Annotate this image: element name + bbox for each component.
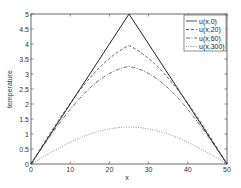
x-tick-label: 50 (223, 166, 231, 173)
y-tick-label: 3 (25, 71, 29, 78)
y-tick-label: 0.5 (19, 146, 29, 153)
y-tick-label: 2 (25, 101, 29, 108)
x-tick-label: 0 (29, 166, 33, 173)
y-tick-label: 1.5 (19, 116, 29, 123)
line-chart: 00.511.522.533.544.55 01020304050 x temp… (0, 0, 241, 188)
legend-entry: u(x,60) (199, 35, 221, 43)
y-tick-label: 1 (25, 131, 29, 138)
legend: u(x,0)u(x,20)u(x,60)u(x,300) (184, 15, 226, 51)
y-tick-label: 4 (25, 41, 29, 48)
x-tick-label: 40 (184, 166, 192, 173)
x-tick-label: 30 (145, 166, 153, 173)
y-tick-label: 2.5 (19, 86, 29, 93)
y-tick-label: 3.5 (19, 56, 29, 63)
y-tick-label: 4.5 (19, 26, 29, 33)
legend-entry: u(x,20) (199, 26, 221, 34)
legend-entry: u(x,300) (199, 43, 225, 51)
x-axis-label: x (125, 174, 129, 181)
y-tick-label: 5 (25, 11, 29, 18)
legend-entry: u(x,0) (199, 18, 217, 26)
x-tick-label: 20 (106, 166, 114, 173)
y-axis-label: temperature (6, 70, 14, 108)
x-tick-label: 10 (66, 166, 74, 173)
